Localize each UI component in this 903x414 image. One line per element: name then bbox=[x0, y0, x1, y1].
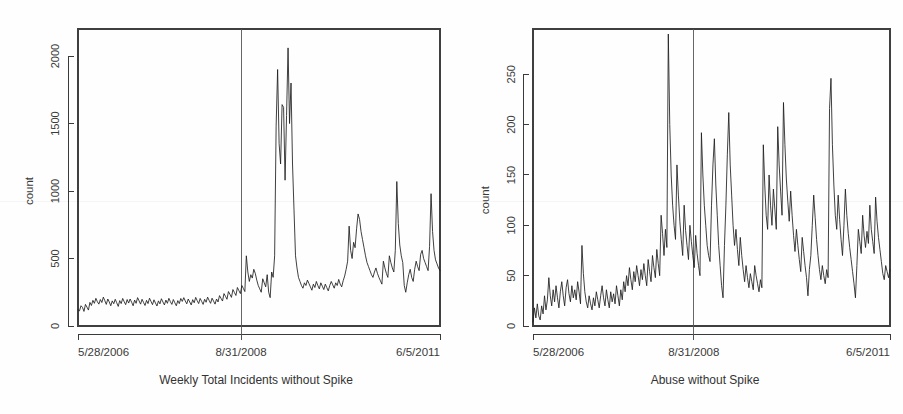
y-axis-tick-label: 0 bbox=[49, 323, 61, 329]
y-axis-title: count bbox=[23, 176, 35, 205]
y-axis-tick-label: 500 bbox=[49, 249, 61, 267]
chart-caption: Abuse without Spike bbox=[651, 373, 760, 387]
x-axis-tick-label: 8/31/2008 bbox=[215, 346, 266, 358]
weekly-total-incidents-chart: 0500100015002000count5/28/20068/31/20086… bbox=[0, 0, 460, 414]
x-axis-tick-label: 5/28/2006 bbox=[78, 346, 129, 358]
data-series-line bbox=[533, 34, 890, 322]
y-axis-tick-label: 250 bbox=[505, 65, 517, 83]
y-axis-tick-label: 100 bbox=[505, 216, 517, 234]
y-axis-tick-label: 2000 bbox=[49, 44, 61, 68]
chart-caption: Weekly Total Incidents without Spike bbox=[159, 373, 353, 387]
chart-panel-left: 0500100015002000count5/28/20068/31/20086… bbox=[0, 0, 460, 414]
abuse-chart: 050100150200250count5/28/20068/31/20086/… bbox=[460, 0, 903, 414]
x-axis-tick-label: 6/5/2011 bbox=[396, 346, 440, 358]
x-axis-tick-label: 5/28/2006 bbox=[533, 346, 584, 358]
data-series-line bbox=[78, 48, 440, 312]
y-axis-tick-label: 1500 bbox=[49, 111, 61, 135]
plot-box bbox=[78, 29, 440, 326]
x-axis-tick-label: 6/5/2011 bbox=[846, 346, 890, 358]
y-axis-tick-label: 0 bbox=[505, 323, 517, 329]
plot-box bbox=[533, 29, 890, 326]
x-axis-tick-label: 8/31/2008 bbox=[668, 346, 719, 358]
figure-page: 0500100015002000count5/28/20068/31/20086… bbox=[0, 0, 903, 414]
y-axis-tick-label: 50 bbox=[505, 270, 517, 282]
y-axis-tick-label: 150 bbox=[505, 166, 517, 184]
y-axis-tick-label: 200 bbox=[505, 115, 517, 133]
y-axis-title: count bbox=[479, 185, 491, 214]
chart-panel-right: 050100150200250count5/28/20068/31/20086/… bbox=[460, 0, 903, 414]
y-axis-tick-label: 1000 bbox=[49, 179, 61, 203]
